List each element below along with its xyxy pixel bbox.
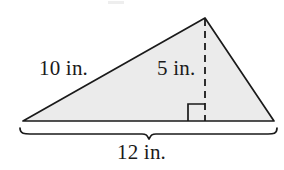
slant-side-length-label: 10 in.	[39, 58, 88, 79]
scan-artifact	[108, 1, 124, 4]
base-measurement-brace	[20, 128, 277, 139]
height-length-label: 5 in.	[157, 58, 195, 79]
geometry-figure: 10 in. 5 in. 12 in.	[0, 0, 284, 170]
base-length-label: 12 in.	[117, 142, 166, 163]
